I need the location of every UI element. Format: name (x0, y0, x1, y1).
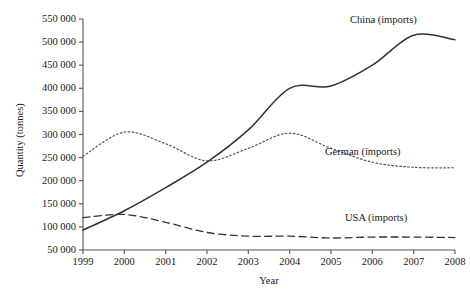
x-axis-tick-label: 2002 (185, 256, 229, 267)
x-axis-tick-label: 2001 (144, 256, 188, 267)
series-line-china (83, 34, 455, 230)
series-label-usa: USA (imports) (345, 212, 407, 223)
x-axis-tick-label: 1999 (61, 256, 105, 267)
x-axis-tick-label: 2005 (309, 256, 353, 267)
series-lines (83, 34, 455, 238)
x-axis-tick-label: 2006 (350, 256, 394, 267)
series-label-german: German (imports) (325, 146, 401, 157)
y-axis-tick-label: 350 000 (8, 105, 76, 116)
x-axis-tick-label: 2000 (102, 256, 146, 267)
y-axis-tick-label: 50 000 (8, 244, 76, 255)
x-axis-tick-label: 2008 (433, 256, 470, 267)
y-axis-tick-label: 300 000 (8, 129, 76, 140)
figure-caption (12, 292, 462, 302)
y-axis-ticks (79, 19, 83, 250)
x-axis-tick-label: 2003 (226, 256, 270, 267)
y-axis-tick-label: 500 000 (8, 36, 76, 47)
y-axis-tick-label: 450 000 (8, 59, 76, 70)
x-axis-ticks (83, 250, 455, 254)
y-axis-tick-label: 400 000 (8, 82, 76, 93)
y-axis-tick-label: 200 000 (8, 175, 76, 186)
x-axis-title: Year (43, 275, 470, 286)
figure-container: Quantity (tonnes) Year China (imports) G… (0, 0, 470, 302)
y-axis-tick-label: 250 000 (8, 152, 76, 163)
y-axis-tick-label: 100 000 (8, 221, 76, 232)
y-axis-tick-label: 150 000 (8, 198, 76, 209)
x-axis-tick-label: 2007 (392, 256, 436, 267)
x-axis-tick-label: 2004 (268, 256, 312, 267)
y-axis-tick-label: 550 000 (8, 13, 76, 24)
series-label-china: China (imports) (350, 14, 417, 25)
